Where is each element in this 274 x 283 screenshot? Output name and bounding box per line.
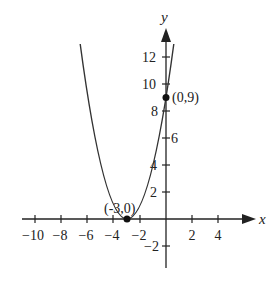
parabola-curve bbox=[80, 44, 174, 219]
vertex-label: (-3,0) bbox=[104, 201, 136, 217]
svg-text:−2: −2 bbox=[144, 239, 159, 254]
y-intercept-label: (0,9) bbox=[172, 90, 199, 106]
y-tick-labels: 12 10 8 6 4 2 −2 bbox=[142, 50, 178, 254]
x-tick-labels: −10 −8 −6 −4 −2 2 4 bbox=[22, 228, 221, 243]
svg-text:8: 8 bbox=[151, 104, 158, 119]
svg-text:−6: −6 bbox=[79, 228, 94, 243]
svg-text:2: 2 bbox=[189, 228, 196, 243]
svg-text:−8: −8 bbox=[53, 228, 68, 243]
y-axis-arrow-icon bbox=[161, 28, 171, 42]
x-axis-label: x bbox=[258, 211, 266, 227]
svg-text:12: 12 bbox=[142, 50, 156, 65]
y-axis-label: y bbox=[159, 9, 168, 25]
svg-text:−10: −10 bbox=[22, 228, 44, 243]
y-intercept-point bbox=[163, 94, 170, 101]
svg-text:−4: −4 bbox=[105, 228, 120, 243]
svg-text:4: 4 bbox=[215, 228, 222, 243]
x-axis-arrow-icon bbox=[242, 214, 256, 224]
svg-text:2: 2 bbox=[150, 185, 157, 200]
svg-text:10: 10 bbox=[142, 77, 156, 92]
parabola-graph: x y −10 −8 −6 −4 −2 2 4 12 10 8 6 4 2 bbox=[0, 0, 274, 283]
svg-text:6: 6 bbox=[171, 131, 178, 146]
vertex-point bbox=[124, 216, 131, 223]
